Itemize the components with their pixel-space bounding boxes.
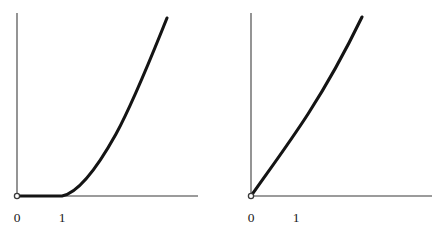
right-xtick-label-1: 1 <box>293 210 300 225</box>
left-xtick-label-0: 0 <box>14 210 21 225</box>
left-plot-svg: 0 1 <box>0 0 222 230</box>
left-origin-marker <box>14 193 19 198</box>
right-plot-svg: 0 1 <box>222 0 443 230</box>
right-curve <box>251 17 362 196</box>
left-plot-panel: 0 1 <box>0 0 222 230</box>
left-curve <box>17 18 167 196</box>
right-xtick-label-0: 0 <box>248 210 255 225</box>
left-xtick-label-1: 1 <box>59 210 66 225</box>
right-plot-panel: 0 1 <box>222 0 443 230</box>
right-origin-marker <box>248 193 253 198</box>
figure-container: 0 1 0 1 <box>0 0 443 230</box>
